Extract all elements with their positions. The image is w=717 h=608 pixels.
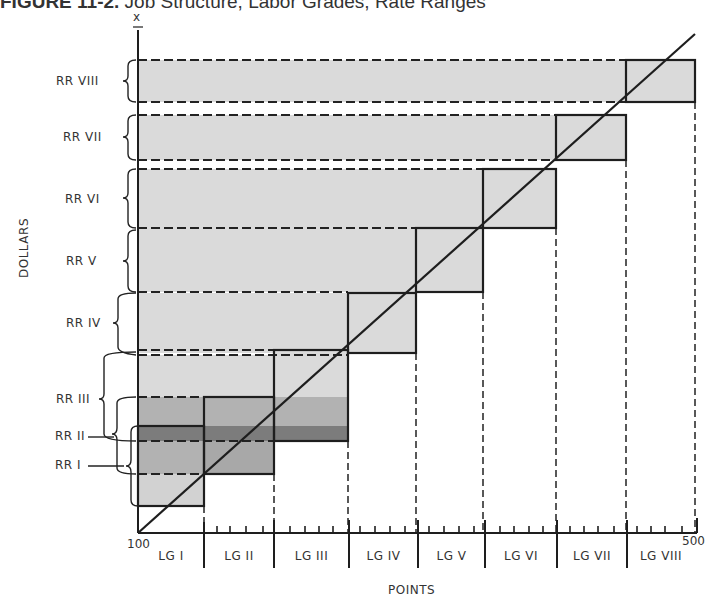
band-rr-v	[138, 228, 416, 292]
band-rr-viii	[138, 60, 626, 102]
rr-label-vii: RR VII	[63, 130, 102, 144]
lg-label-v: LG V	[418, 549, 485, 563]
rate-range-braces	[99, 60, 138, 506]
x-axis-label: POINTS	[388, 583, 435, 597]
minor-ticks	[217, 526, 682, 533]
band-rr-vi	[138, 169, 483, 228]
lg-label-vi: LG VI	[485, 549, 557, 563]
rr-label-vi: RR VI	[65, 192, 100, 206]
lg-label-ii: LG II	[204, 549, 274, 563]
band-rr-iv	[138, 293, 348, 353]
rr-label-ii: RR II	[55, 429, 85, 443]
y-axis-label: DOLLARS	[17, 222, 31, 278]
lg-label-i: LG I	[138, 549, 204, 563]
x-max-label: 500	[682, 534, 705, 548]
rr-label-iv: RR IV	[66, 316, 101, 330]
lg-label-viii: LG VIII	[627, 549, 695, 563]
rr-label-viii: RR VIII	[56, 74, 99, 88]
lg-label-iv: LG IV	[349, 549, 418, 563]
lg-label-iii: LG III	[274, 549, 349, 563]
chart-canvas	[0, 0, 717, 608]
lg-label-vii: LG VII	[557, 549, 627, 563]
rr-label-v: RR V	[66, 254, 97, 268]
rr-leader-lines	[88, 437, 124, 466]
rr-label-i: RR I	[55, 458, 81, 472]
rr-label-iii: RR III	[56, 392, 90, 406]
band-rr-vii	[138, 115, 556, 160]
y-axis-top-mark: x	[133, 10, 140, 24]
